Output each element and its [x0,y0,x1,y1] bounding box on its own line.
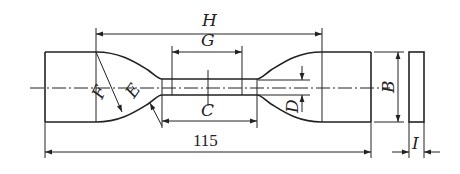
label-I: I [411,133,419,153]
side-view-rect [409,52,424,122]
label-C: C [201,100,214,120]
label-G: G [201,30,215,50]
dim-F-leader [96,52,122,112]
label-115: 115 [193,131,218,150]
label-D: D [282,99,302,114]
specimen-drawing: H G C 115 B D F E I [0,0,460,174]
label-F: F [87,81,111,102]
label-E: E [120,79,144,102]
label-H: H [201,10,218,30]
label-B: B [378,81,398,95]
dim-E-leader [150,103,162,126]
